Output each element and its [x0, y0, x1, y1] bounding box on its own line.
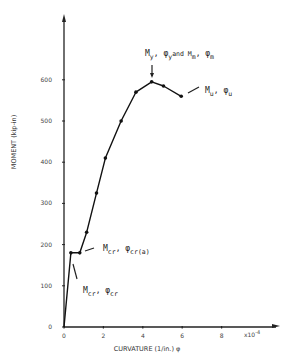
arrowhead-my-icon [150, 73, 154, 78]
y-tick-label: 200 [41, 241, 53, 248]
data-series [64, 80, 183, 327]
data-point [85, 230, 89, 234]
arrow-mcr-icon [73, 264, 77, 279]
x-multiplier-base: x10 [244, 331, 255, 338]
arrow-mu-icon [188, 87, 199, 93]
y-axis-arrow-icon [62, 14, 66, 22]
moment-curvature-chart: 0100200300400500600 02468 MOMENT (kip-in… [0, 0, 287, 356]
x-multiplier-exponent: -4 [255, 329, 260, 335]
y-tick-label: 0 [48, 323, 52, 330]
annotation-mcr-a: Mcr, φcr(a) [85, 244, 150, 256]
data-point [104, 156, 108, 160]
y-tick-label: 400 [41, 158, 53, 165]
data-point [69, 251, 73, 255]
data-point [134, 90, 138, 94]
annotation-mu: Mu, φu [188, 86, 232, 98]
x-multiplier: x10-4 [244, 329, 260, 338]
x-ticks: 02468 [62, 326, 224, 339]
data-point [95, 191, 99, 195]
y-axis-title: MOMENT (kip-in) [10, 115, 18, 169]
y-tick-label: 100 [41, 282, 53, 289]
data-markers [69, 80, 183, 255]
data-point [119, 119, 123, 123]
x-tick-label: 2 [101, 332, 105, 339]
data-point [179, 94, 183, 98]
label-mu: Mu, φu [205, 86, 232, 98]
x-tick-label: 6 [180, 332, 184, 339]
arrow-mcr-a-icon [85, 248, 94, 251]
label-my-mm: My, φyand Mm, φm [145, 49, 214, 61]
y-tick-label: 300 [41, 199, 53, 206]
x-tick-label: 4 [141, 332, 145, 339]
data-point [78, 251, 82, 255]
annotation-my-mm: My, φyand Mm, φm [145, 49, 214, 78]
label-mcr: Mcr, φcr [83, 286, 118, 298]
x-tick-label: 0 [62, 332, 66, 339]
data-point [162, 84, 166, 88]
x-axis-title: CURVATURE (1/in.) φ [114, 345, 181, 353]
x-tick-label: 8 [220, 332, 224, 339]
y-ticks: 0100200300400500600 [41, 76, 65, 330]
label-mcr-a: Mcr, φcr(a) [103, 244, 150, 256]
data-point [150, 80, 154, 84]
y-tick-label: 600 [41, 76, 53, 83]
y-tick-label: 500 [41, 117, 53, 124]
annotation-mcr: Mcr, φcr [73, 264, 118, 298]
moment-curvature-line [64, 82, 181, 327]
axes: 0100200300400500600 02468 [41, 14, 280, 339]
